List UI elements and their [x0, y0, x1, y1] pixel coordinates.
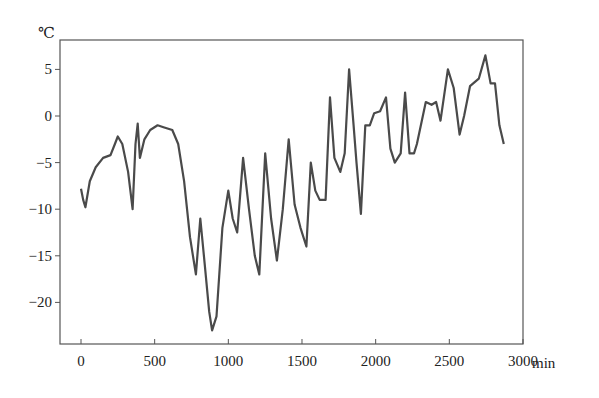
y-tick-label: 0 — [45, 108, 53, 124]
x-tick-label: 1000 — [213, 353, 243, 369]
y-tick-label: −15 — [29, 248, 52, 264]
temperature-line-chart: 50−5−10−15−20 050010001500200025003000 ℃… — [0, 0, 599, 398]
x-tick-label: 2500 — [434, 353, 464, 369]
y-axis-unit-label: ℃ — [38, 25, 55, 41]
x-axis-unit-label: min — [532, 355, 556, 371]
y-tick-label: −10 — [29, 201, 52, 217]
temperature-series-line — [81, 55, 504, 330]
x-tick-label: 2000 — [361, 353, 391, 369]
y-tick-label: −5 — [36, 155, 52, 171]
y-tick-label: 5 — [45, 61, 53, 77]
x-tick-label: 1500 — [287, 353, 317, 369]
x-tick-label: 500 — [143, 353, 166, 369]
x-tick-label: 0 — [77, 353, 85, 369]
y-axis: 50−5−10−15−20 — [29, 61, 60, 310]
y-tick-label: −20 — [29, 294, 52, 310]
